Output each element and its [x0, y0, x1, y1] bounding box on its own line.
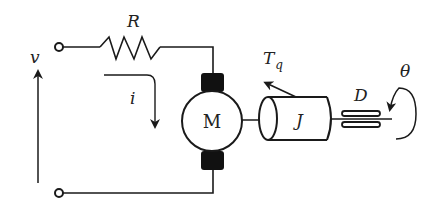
torque-arrow — [266, 83, 296, 97]
inertia-cylinder — [259, 97, 331, 140]
resistor-label: R — [126, 11, 140, 31]
voltage-label: v — [30, 47, 40, 67]
bottom-wire — [63, 170, 213, 193]
current-label: i — [130, 88, 135, 108]
top-terminal — [55, 43, 63, 51]
top-brush — [201, 73, 224, 92]
bottom-brush — [201, 151, 224, 170]
motor-label: M — [203, 111, 221, 132]
inertia-label: J — [293, 110, 304, 130]
resistor — [63, 37, 213, 74]
dc-motor-diagram: v R i M J — [0, 0, 441, 215]
angle-label: θ — [400, 61, 410, 81]
motor — [182, 73, 270, 170]
torque-label-sub: q — [275, 58, 283, 72]
torque-label: Tq — [263, 48, 283, 72]
torque-label-main: T — [263, 48, 276, 68]
damping-label: D — [353, 85, 368, 105]
rotation-arrow-icon — [390, 88, 416, 139]
damper — [331, 111, 392, 127]
diagram-canvas: v R i M J — [0, 0, 441, 215]
bottom-terminal — [55, 189, 63, 197]
